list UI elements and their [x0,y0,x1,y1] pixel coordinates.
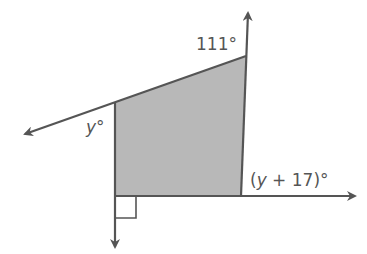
angle-label-y: y° [85,117,105,137]
angle-label-111: 111° [196,34,237,54]
right-angle-marker [115,196,136,218]
angle-label-y-plus-17: (y + 17)° [250,170,329,190]
shaded-quadrilateral [115,56,246,196]
diagram-canvas: 111° y° (y + 17)° [0,0,367,254]
